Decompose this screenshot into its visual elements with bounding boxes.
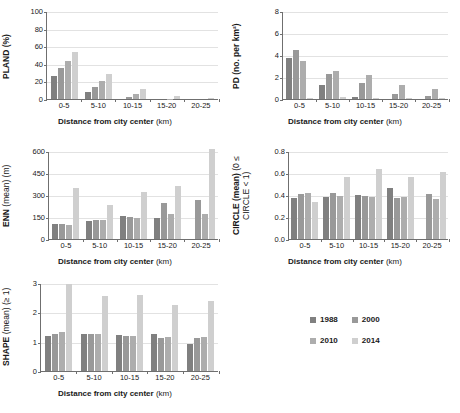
bar-1988 [352,97,358,99]
y-tick-label: 20 [35,79,43,87]
x-tick-label: 15-20 [150,102,184,110]
bar-2010 [66,225,72,239]
bar-group: 10-15 [112,284,147,371]
bar-1988 [291,198,297,239]
bar-1988 [187,344,193,371]
x-tick-mark [112,371,113,374]
bar-1988 [52,224,58,239]
x-tick-mark [384,239,385,242]
bar-2010 [202,214,208,239]
bar-1988 [85,92,91,99]
bar-2014 [140,89,146,99]
bar-2014 [141,192,147,239]
x-axis-title: Distance from city center (km) [0,390,230,399]
y-tick-label: 0.2 [275,214,285,222]
bar-group: 10-15 [115,12,149,99]
legend-item-2000: 2000 [352,316,380,324]
bar-group: 5-10 [76,284,111,371]
x-tick-mark [183,371,184,374]
chart-pd: PD (no. per km²)024680-55-1010-1515-2020… [230,4,460,140]
bar-2010 [401,197,407,239]
x-tick-mark [382,99,383,102]
y-axis-title: PD (no. per km²) [232,10,242,102]
legend-swatch-icon [310,317,316,323]
bar-2000 [126,97,132,99]
x-tick-mark [321,239,322,242]
x-tick-mark [76,371,77,374]
bar-2000 [298,194,304,239]
legend-swatch-icon [352,317,358,323]
bar-groups: 0-55-1010-1515-2020-25 [49,152,218,239]
bar-2000 [194,338,200,371]
x-tick-label: 5-10 [83,242,117,250]
bar-group: 0-5 [47,12,81,99]
y-tick-label: 450 [32,170,45,178]
x-tick-mark [349,99,350,102]
plot-area: 0.00.20.40.60.80-55-1010-1515-2020-25 [288,152,448,240]
bar-1988 [116,335,122,371]
bar-2010 [130,336,136,371]
bar-2000 [425,96,431,99]
y-tick-mark [286,240,289,241]
bar-1988 [86,221,92,239]
x-tick-label: 0-5 [283,102,316,110]
legend-label: 2000 [362,316,380,324]
legend-item-2010: 2010 [310,337,338,345]
legend-label: 2014 [362,337,380,345]
bar-2010 [432,89,438,99]
plot-area: 024680-55-1010-1515-2020-25 [282,12,448,100]
x-axis-title-main: Distance from city center [58,117,154,126]
y-tick-label: 300 [32,192,45,200]
y-tick-label: 100 [30,8,43,16]
y-tick-label: 0 [33,368,37,376]
x-tick-mark [184,239,185,242]
x-tick-label: 5-10 [316,102,349,110]
bar-2014 [106,74,112,99]
bar-2010 [133,94,139,99]
x-tick-label: 15-20 [147,374,182,382]
x-tick-mark [219,239,220,242]
y-tick-label: 0 [41,236,45,244]
bar-1988 [355,195,361,239]
bar-groups: 0-55-1010-1515-2020-25 [41,284,218,371]
legend-swatch-icon [352,338,358,344]
bar-2010 [65,61,71,99]
x-tick-mark [147,371,148,374]
x-tick-label: 10-15 [112,374,147,382]
bar-groups: 0-55-1010-1515-2020-25 [283,12,448,99]
bar-2014 [208,301,214,371]
bar-groups: 0-55-1010-1515-2020-25 [289,152,448,239]
bar-2000 [359,83,365,100]
y-axis-title: SHAPE (mean) (≥ 1) [2,280,12,374]
bar-1988 [81,334,87,371]
bar-group: 0-5 [289,152,321,239]
y-tick-label: 2 [275,74,279,82]
bar-2014 [172,305,178,371]
x-tick-label: 15-20 [382,102,415,110]
x-tick-label: 5-10 [76,374,111,382]
bar-2014 [307,98,313,99]
x-tick-label: 0-5 [47,102,81,110]
bar-group: 15-20 [384,152,416,239]
x-axis-title: Distance from city center (km) [230,118,460,127]
y-axis-title: CIRCLE (mean) (0 ≤ CIRCLE < 1) [232,146,252,246]
bar-2000 [426,194,432,239]
bar-2010 [366,75,372,99]
x-tick-mark [353,239,354,242]
bar-group: 15-20 [382,12,415,99]
y-tick-label: 80 [35,26,43,34]
y-tick-mark [280,100,283,101]
bar-2000 [58,68,64,99]
x-tick-mark [219,371,220,374]
y-tick-label: 0.6 [275,170,285,178]
bar-2000 [362,196,368,239]
x-tick-mark [449,239,450,242]
plot-area: 01503004506000-55-1010-1515-2020-25 [48,152,218,240]
bar-1988 [151,334,157,371]
bar-1988 [387,188,393,239]
x-tick-label: 0-5 [49,242,83,250]
y-tick-label: 0.0 [275,236,285,244]
x-axis-title-unit: (km) [384,257,402,266]
bar-2014 [408,177,414,239]
plot-area: 01230-55-1010-1515-2020-25 [40,284,218,372]
